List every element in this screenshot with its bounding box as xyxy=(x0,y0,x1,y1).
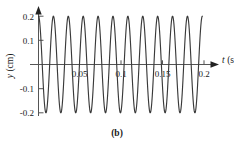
y-tick-label-3: -0.2 xyxy=(20,108,34,118)
figure-panel: 0.2 0.1 -0.1 -0.2 0.05 0.1 0.15 0.2 t(s)… xyxy=(0,0,234,142)
figure-caption: (b) xyxy=(111,128,123,139)
x-axis-symbol: t xyxy=(222,55,225,65)
y-tick-label-2: -0.1 xyxy=(20,84,34,94)
y-tick-label-0: 0.2 xyxy=(23,12,34,22)
x-axis-title: t(s) xyxy=(222,55,234,66)
y-axis-unit: (cm) xyxy=(5,54,16,72)
y-tick-label-1: 0.1 xyxy=(23,36,34,46)
y-axis-title: y(cm) xyxy=(5,54,16,80)
x-axis-arrow-icon xyxy=(211,61,220,67)
x-tick-label-3: 0.2 xyxy=(198,69,209,79)
oscillation-chart: 0.2 0.1 -0.1 -0.2 0.05 0.1 0.15 0.2 t(s)… xyxy=(0,0,234,142)
x-axis-unit: (s) xyxy=(227,55,234,66)
y-axis-symbol: y xyxy=(5,73,15,79)
y-axis-arrow-icon xyxy=(35,6,41,15)
